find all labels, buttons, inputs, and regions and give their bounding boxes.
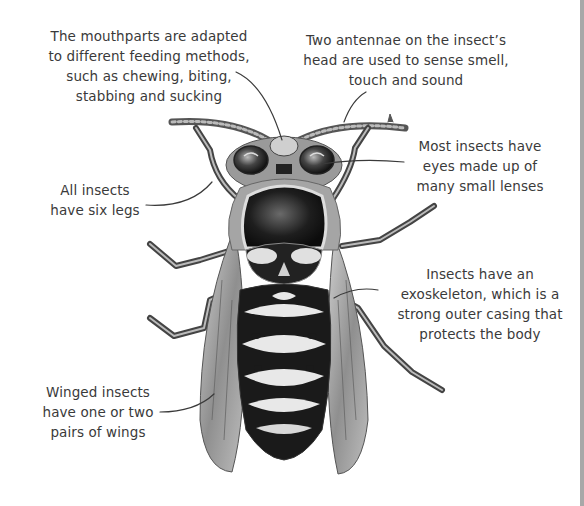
label-exoskeleton-line: Insects have an — [380, 264, 580, 284]
label-legs: All insects have six legs — [40, 180, 150, 220]
label-antennae-line: touch and sound — [296, 70, 516, 90]
label-legs-line: have six legs — [40, 200, 150, 220]
leader-antennae — [344, 92, 366, 122]
label-mouthparts-line: to different feeding methods, — [14, 46, 284, 66]
label-exoskeleton-line: exoskeleton, which is a — [380, 284, 580, 304]
label-legs-line: All insects — [40, 180, 150, 200]
label-eyes-line: Most insects have — [400, 136, 560, 156]
label-mouthparts-line: stabbing and sucking — [14, 86, 284, 106]
thorax — [228, 179, 340, 284]
leader-legs — [146, 182, 212, 205]
label-mouthparts-line: such as chewing, biting, — [14, 66, 284, 86]
label-exoskeleton: Insects have an exoskeleton, which is a … — [380, 264, 580, 344]
label-antennae-line: head are used to sense smell, — [296, 50, 516, 70]
label-mouthparts-line: The mouthparts are adapted — [14, 26, 284, 46]
label-eyes-line: eyes made up of — [400, 156, 560, 176]
label-wings-line: Winged insects — [36, 382, 160, 402]
label-exoskeleton-line: strong outer casing that — [380, 304, 580, 324]
label-exoskeleton-line: protects the body — [380, 324, 580, 344]
label-eyes-line: many small lenses — [400, 176, 560, 196]
label-wings-line: have one or two — [36, 402, 160, 422]
abdomen — [237, 284, 331, 460]
label-antennae: Two antennae on the insect’s head are us… — [296, 30, 516, 90]
label-antennae-line: Two antennae on the insect’s — [296, 30, 516, 50]
label-wings: Winged insects have one or two pairs of … — [36, 382, 160, 442]
label-mouthparts: The mouthparts are adapted to different … — [14, 26, 284, 106]
label-eyes: Most insects have eyes made up of many s… — [400, 136, 560, 196]
label-wings-line: pairs of wings — [36, 422, 160, 442]
